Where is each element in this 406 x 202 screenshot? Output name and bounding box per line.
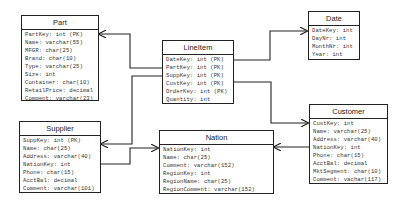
attribute: CustKey: int bbox=[313, 120, 387, 128]
connector-lineitem-date bbox=[233, 31, 307, 60]
attribute: AcctBal: decimal bbox=[313, 160, 387, 168]
attribute: Brand: char(10) bbox=[25, 55, 98, 63]
attribute: Phone: char(15) bbox=[23, 169, 100, 177]
attribute: Name: char(25) bbox=[23, 145, 100, 153]
attribute: DayNr: int bbox=[312, 35, 359, 43]
attribute: RetailPrice: decimal bbox=[25, 87, 98, 95]
entity-title: Customer bbox=[310, 105, 387, 119]
entity-title: LineItem bbox=[163, 41, 233, 55]
attribute: Address: varchar(40) bbox=[313, 136, 387, 144]
attribute: Name: varchar(25) bbox=[313, 128, 387, 136]
attribute: Name: varchar(55) bbox=[25, 39, 98, 47]
attribute: Name: char(25) bbox=[163, 154, 273, 162]
attribute-list: PartKey: int (PK) Name: varchar(55) MFGR… bbox=[22, 30, 98, 103]
attribute: Quantity: int bbox=[166, 96, 233, 104]
attribute: PartKey: int (PK) bbox=[166, 64, 233, 72]
attribute: Size: int bbox=[25, 71, 98, 79]
attribute: SuppKey: int (PK) bbox=[166, 72, 233, 80]
attribute: MktSegment: char(10) bbox=[313, 168, 387, 176]
attribute: NationKey: int bbox=[163, 146, 273, 154]
attribute: Comment: varchar(152) bbox=[163, 162, 273, 170]
attribute: NationKey: int bbox=[313, 144, 387, 152]
attribute: Type: varchar(25) bbox=[25, 63, 98, 71]
attribute: Address: varchar(40) bbox=[23, 153, 100, 161]
entity-title: Nation bbox=[160, 131, 273, 145]
attribute: RegionKey: int bbox=[163, 170, 273, 178]
entity-title: Date bbox=[309, 12, 359, 26]
attribute-list: DateKey: int (PK) PartKey: int (PK) Supp… bbox=[163, 55, 233, 104]
entity-lineitem[interactable]: LineItem DateKey: int (PK) PartKey: int … bbox=[162, 40, 234, 104]
attribute: Year: int bbox=[312, 51, 359, 59]
attribute: MFGR: char(25) bbox=[25, 47, 98, 55]
attribute: SuppKey: int (PK) bbox=[23, 137, 100, 145]
attribute: DateKey: int bbox=[312, 27, 359, 35]
attribute-list: DateKey: int DayNr: int MonthNr: int Yea… bbox=[309, 26, 359, 59]
attribute: Comment: vachar(117) bbox=[313, 176, 387, 184]
attribute: Container: char(10) bbox=[25, 79, 98, 87]
attribute: Phone: char(15) bbox=[313, 152, 387, 160]
entity-title: Part bbox=[22, 16, 98, 30]
entity-customer[interactable]: Customer CustKey: int Name: varchar(25) … bbox=[309, 104, 388, 184]
attribute: CustKey: int (PK) bbox=[166, 80, 233, 88]
connector-lineitem-supplier bbox=[101, 76, 162, 144]
entity-date[interactable]: Date DateKey: int DayNr: int MonthNr: in… bbox=[308, 11, 360, 60]
entity-nation[interactable]: Nation NationKey: int Name: char(25) Com… bbox=[159, 130, 274, 194]
attribute: AcctBal: decimal bbox=[23, 177, 100, 185]
attribute: RegionComment: varchar(152) bbox=[163, 186, 273, 194]
attribute-list: SuppKey: int (PK) Name: char(25) Address… bbox=[20, 136, 100, 193]
connector-lineitem-customer bbox=[233, 82, 308, 123]
attribute-list: CustKey: int Name: varchar(25) Address: … bbox=[310, 119, 387, 184]
attribute: Comment: varchar(101) bbox=[23, 185, 100, 193]
attribute: MonthNr: int bbox=[312, 43, 359, 51]
attribute: DateKey: int (PK) bbox=[166, 56, 233, 64]
entity-title: Supplier bbox=[20, 122, 100, 136]
attribute: OrderKey: int (PK) bbox=[166, 88, 233, 96]
er-diagram-canvas: Part PartKey: int (PK) Name: varchar(55)… bbox=[0, 0, 406, 202]
attribute: PartKey: int (PK) bbox=[25, 31, 98, 39]
attribute: NationKey: int bbox=[23, 161, 100, 169]
entity-part[interactable]: Part PartKey: int (PK) Name: varchar(55)… bbox=[21, 15, 99, 101]
connector-lineitem-part bbox=[99, 34, 162, 68]
entity-supplier[interactable]: Supplier SuppKey: int (PK) Name: char(25… bbox=[19, 121, 101, 193]
attribute-list: NationKey: int Name: char(25) Comment: v… bbox=[160, 145, 273, 194]
attribute: RegionName: char(25) bbox=[163, 178, 273, 186]
attribute: Comment: varchar(23) bbox=[25, 95, 98, 103]
connector-supplier-nation bbox=[100, 148, 158, 164]
